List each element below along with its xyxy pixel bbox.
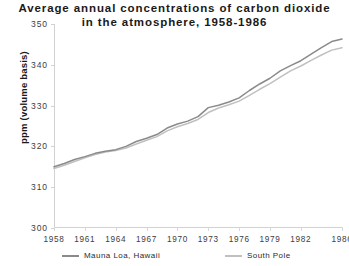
series-line-mauna-loa-hawaii	[54, 39, 342, 167]
chart-figure: Average annual concentrations of carbon …	[0, 0, 349, 266]
legend-label-mauna-loa: Mauna Loa, Hawaii	[84, 251, 160, 260]
legend-item-south-pole: South Pole	[225, 251, 291, 260]
x-tick-label: 1967	[136, 235, 157, 244]
plot-area: 300310320330340350 195819611964196719701…	[54, 24, 342, 228]
y-tick-label: 310	[31, 182, 48, 192]
legend-label-south-pole: South Pole	[247, 251, 291, 260]
chart-legend: Mauna Loa, Hawaii South Pole	[54, 251, 342, 263]
x-tick-label: 1973	[198, 235, 219, 244]
legend-item-mauna-loa: Mauna Loa, Hawaii	[62, 251, 160, 260]
y-tick-label: 320	[31, 141, 48, 151]
y-tick-label: 330	[31, 101, 48, 111]
x-tick-label: 1986	[331, 235, 349, 244]
x-tick-mark	[342, 227, 343, 231]
legend-swatch-mauna-loa	[62, 255, 79, 257]
x-tick-label: 1958	[43, 235, 64, 244]
y-tick-label: 340	[31, 60, 48, 70]
x-tick-label: 1970	[167, 235, 188, 244]
x-tick-label: 1976	[229, 235, 250, 244]
y-tick-label: 350	[31, 19, 48, 29]
y-axis-label: ppm (volume basis)	[18, 28, 29, 168]
y-tick-label: 300	[31, 223, 48, 233]
x-tick-label: 1961	[74, 235, 95, 244]
legend-swatch-south-pole	[225, 255, 242, 257]
x-tick-label: 1979	[259, 235, 280, 244]
chart-title-line-1: Average annual concentrations of carbon …	[0, 1, 349, 15]
series-lines	[54, 24, 342, 228]
series-line-south-pole	[54, 48, 342, 169]
x-tick-label: 1964	[105, 235, 126, 244]
x-tick-label: 1982	[290, 235, 311, 244]
